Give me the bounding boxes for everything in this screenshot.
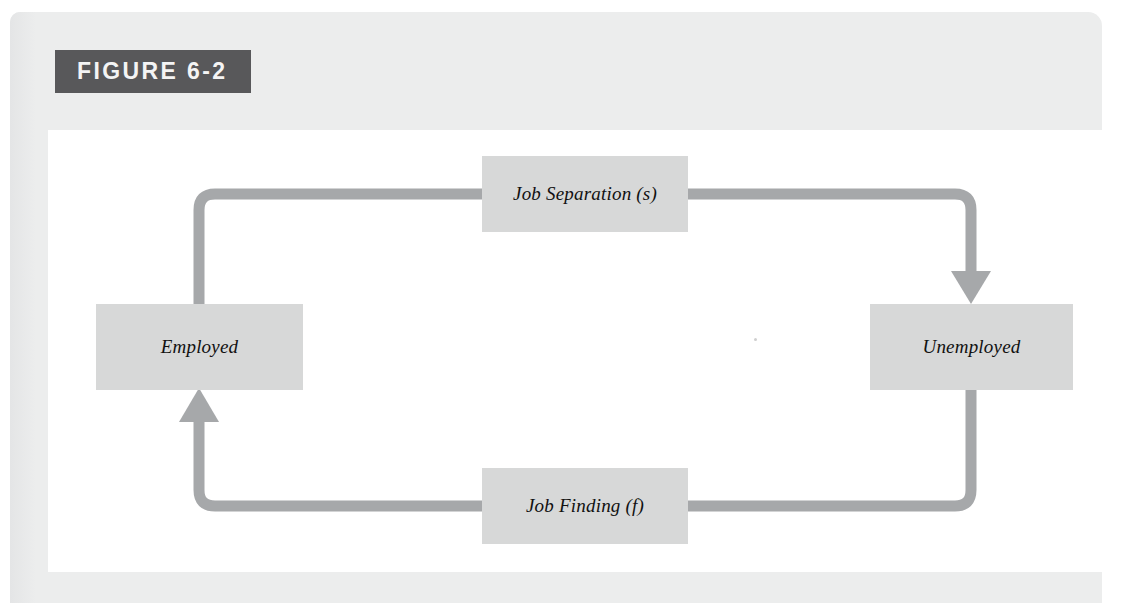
node-unemployed: Unemployed <box>870 304 1073 390</box>
edge-unemployed-to-job-finding <box>684 386 971 506</box>
scan-speck <box>754 338 757 341</box>
edge-job-separation-to-unemployed <box>684 194 971 278</box>
figure-canvas: Job Separation (s) Unemployed Job Findin… <box>48 130 1108 572</box>
arrowhead-down-into-unemployed <box>951 271 991 304</box>
node-employed: Employed <box>96 304 303 390</box>
node-job-finding-label: Job Finding (f) <box>526 495 644 517</box>
figure-number-banner: FIGURE 6-2 <box>55 50 251 93</box>
edge-job-finding-to-employed <box>199 422 486 506</box>
node-employed-label: Employed <box>161 336 239 358</box>
edge-employed-to-job-separation <box>199 194 486 310</box>
node-job-separation-label: Job Separation (s) <box>513 183 657 205</box>
node-job-separation: Job Separation (s) <box>482 156 688 232</box>
arrowhead-up-into-employed <box>179 388 219 422</box>
figure-number-label: FIGURE 6-2 <box>77 58 228 85</box>
node-unemployed-label: Unemployed <box>922 336 1020 358</box>
figure-panel: FIGURE 6-2 Job Separation (s) Unemployed <box>10 12 1102 603</box>
node-job-finding: Job Finding (f) <box>482 468 688 544</box>
page-background: FIGURE 6-2 Job Separation (s) Unemployed <box>0 0 1132 603</box>
